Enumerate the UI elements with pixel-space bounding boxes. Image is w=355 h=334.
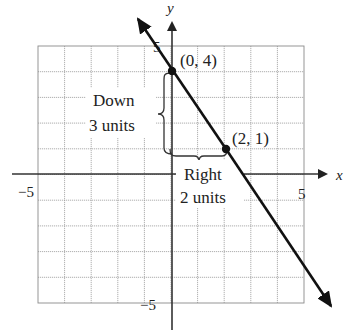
- y-tick-min: −5: [140, 297, 156, 313]
- right-brace: [170, 149, 227, 161]
- coordinate-plane: x y −5 5 5 −5 Down 3 units Right 2 units…: [0, 0, 355, 334]
- down-brace: [158, 73, 172, 154]
- x-tick-min: −5: [18, 184, 34, 200]
- point-0-4-label: (0, 4): [180, 51, 217, 70]
- x-axis-label: x: [335, 167, 343, 183]
- line-y-eq-neg1.5x-plus4-lower: [226, 149, 331, 306]
- point-2-1-label: (2, 1): [232, 129, 269, 148]
- down-label-line1: Down: [93, 91, 135, 110]
- point-0-4: [168, 67, 176, 75]
- down-label-line2: 3 units: [89, 116, 135, 135]
- right-label-line1: Right: [184, 165, 222, 184]
- y-axis-label: y: [165, 0, 174, 16]
- right-label-line2: 2 units: [180, 188, 226, 207]
- point-2-1: [222, 145, 230, 153]
- x-tick-max: 5: [298, 186, 306, 202]
